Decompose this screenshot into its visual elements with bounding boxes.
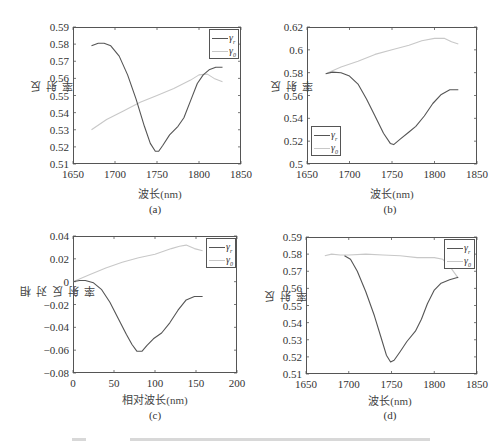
y-tick-label: 0.04 — [29, 230, 69, 242]
y-tick-label: 0.62 — [263, 21, 303, 33]
x-tick-label: 100 — [135, 377, 175, 389]
x-tick-label: 1750 — [372, 378, 412, 390]
y-tick-label: 0.52 — [263, 135, 303, 147]
series-line — [326, 38, 459, 73]
x-tick-label: 1650 — [53, 168, 93, 180]
y-tick-label: 0.57 — [29, 55, 69, 67]
x-tick-label: 1850 — [221, 168, 261, 180]
x-tick-label: 1700 — [329, 378, 369, 390]
x-tick-label: 1700 — [330, 168, 370, 180]
y-tick-label: 0.59 — [29, 21, 69, 33]
sublabel-b: (b) — [370, 203, 410, 215]
legend-a: γr γ0 — [209, 29, 239, 59]
x-tick-label: 0 — [53, 377, 93, 389]
y-tick-label: −0.02 — [29, 299, 69, 311]
x-tick-label: 1850 — [457, 168, 497, 180]
x-axis-label-c: 相对波长(nm) — [110, 391, 200, 407]
x-tick-label: 1650 — [287, 168, 327, 180]
y-tick-label: 0.58 — [262, 248, 302, 260]
x-tick-label: 1850 — [457, 378, 497, 390]
y-tick-label: 0.58 — [263, 67, 303, 79]
series-line — [325, 254, 458, 278]
y-tick-label: 0.59 — [262, 231, 302, 243]
x-tick-label: 1700 — [95, 168, 135, 180]
x-tick-label: 1650 — [286, 378, 326, 390]
y-tick-label: 0.52 — [262, 351, 302, 363]
y-axis-label-d: 反射率 — [262, 290, 310, 302]
y-tick-label: −0.06 — [29, 344, 69, 356]
y-tick-label: 0.54 — [263, 112, 303, 124]
y-tick-label: 0.54 — [29, 107, 69, 119]
series-line — [326, 72, 459, 145]
x-tick-label: 50 — [94, 377, 134, 389]
y-tick-label: 0.53 — [29, 124, 69, 136]
legend-c: γr γ0 — [206, 238, 236, 268]
x-tick-label: 150 — [176, 377, 216, 389]
y-axis-label-a: 反射率 — [28, 80, 76, 92]
y-tick-label: 0.57 — [262, 265, 302, 277]
y-tick-label: 0.58 — [29, 38, 69, 50]
y-tick-label: −0.04 — [29, 321, 69, 333]
y-tick-label: 0.52 — [29, 141, 69, 153]
x-tick-label: 1750 — [372, 168, 412, 180]
sublabel-c: (c) — [135, 409, 175, 421]
x-tick-label: 1800 — [415, 168, 455, 180]
series-line — [73, 245, 203, 282]
legend-b: γr γ0 — [311, 126, 341, 156]
y-tick-label: 0.6 — [263, 44, 303, 56]
x-tick-label: 1800 — [179, 168, 219, 180]
legend-d: γr γ0 — [444, 239, 475, 269]
x-axis-label-a: 波长(nm) — [120, 185, 200, 201]
x-tick-label: 1800 — [414, 378, 454, 390]
x-axis-label-d: 波长(nm) — [350, 392, 430, 408]
series-line — [345, 256, 459, 362]
y-axis-label-c: 相对反射率 — [18, 285, 98, 297]
y-axis-label-b: 反射率 — [268, 80, 316, 92]
sublabel-a: (a) — [135, 203, 175, 215]
y-tick-label: 0.53 — [262, 334, 302, 346]
x-tick-label: 1750 — [137, 168, 177, 180]
x-axis-label-b: 波长(nm) — [352, 185, 432, 201]
y-tick-label: 0.54 — [262, 317, 302, 329]
series-line — [92, 74, 223, 130]
x-tick-label: 200 — [217, 377, 257, 389]
series-line — [92, 43, 223, 151]
y-tick-label: 0.02 — [29, 253, 69, 265]
figure-caption — [60, 436, 450, 442]
sublabel-d: (d) — [370, 409, 410, 421]
